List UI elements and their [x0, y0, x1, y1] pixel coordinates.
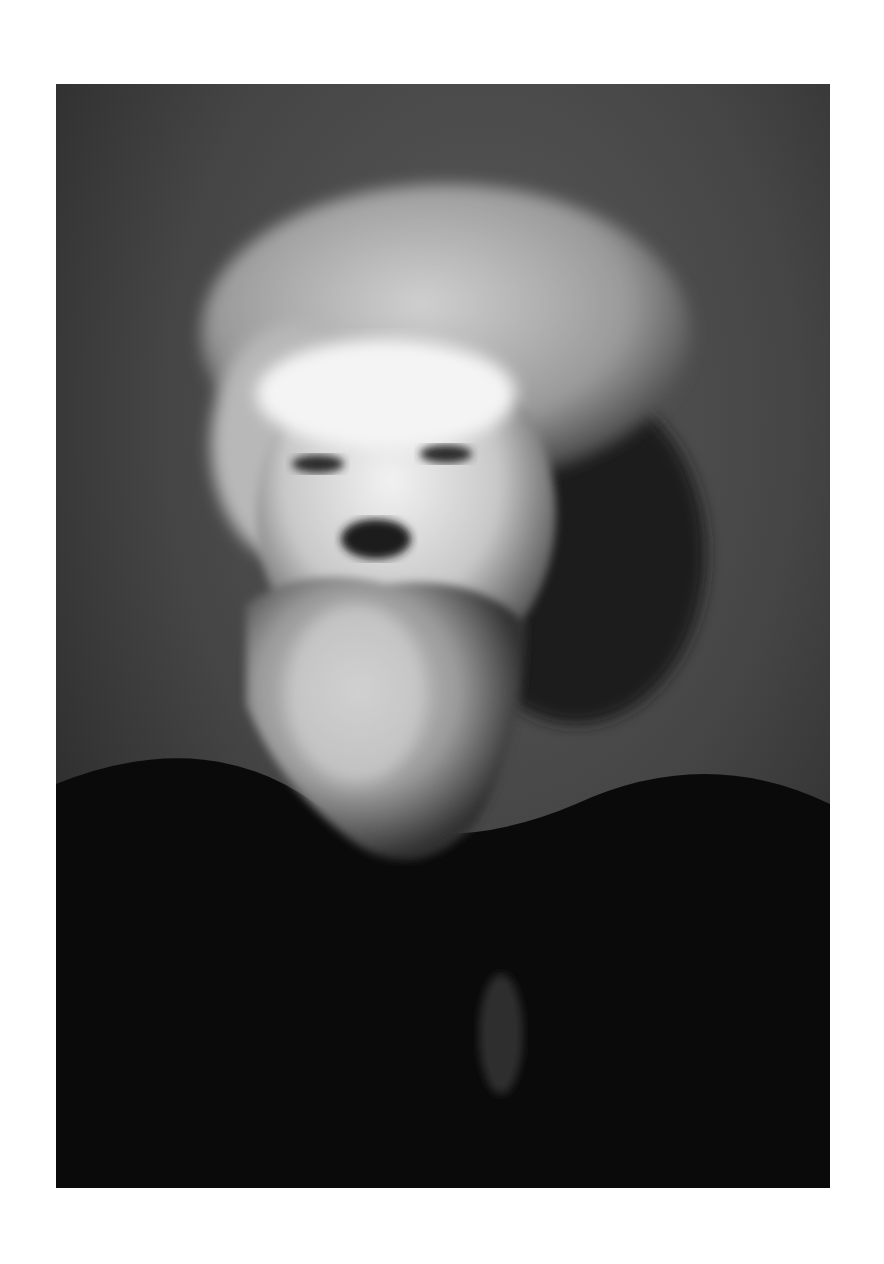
portrait-image: [56, 84, 830, 1188]
shirt-fold: [479, 974, 523, 1094]
beard-highlight: [286, 604, 426, 784]
right-eye: [420, 445, 472, 463]
portrait-painting: [56, 84, 830, 1188]
nose-shadow: [341, 519, 411, 559]
left-eye: [292, 455, 344, 473]
forehead: [256, 339, 516, 449]
